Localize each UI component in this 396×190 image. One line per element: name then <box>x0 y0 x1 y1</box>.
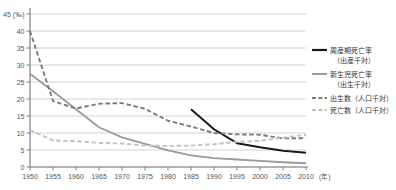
x-axis-tick-label: 1985 <box>183 173 199 180</box>
x-axis-tick-label: 1955 <box>45 173 61 180</box>
x-axis-tick-label: 2010 <box>298 173 314 180</box>
line-chart: 45 (‰)4035302520151050195019551960196519… <box>0 0 396 190</box>
x-axis-tick-label: 1995 <box>229 173 245 180</box>
legend-sublabel-1: （出産千対） <box>333 56 375 65</box>
y-axis-tick-label: 20 <box>17 96 25 103</box>
x-axis-tick-label: 2005 <box>275 173 291 180</box>
x-axis-tick-label: 1950 <box>22 173 38 180</box>
y-axis-tick-label: 0 <box>21 164 25 171</box>
y-axis-tick-label: 5 <box>21 147 25 154</box>
y-axis-tick-label: 25 <box>17 79 25 86</box>
legend-label-1: 周産期死亡率 <box>330 46 372 55</box>
legend-label-3: 出生数（人口千対） <box>330 94 393 103</box>
series-line-4 <box>30 130 306 146</box>
y-axis-tick-label: 35 <box>17 45 25 52</box>
legend-label-4: 死亡数（人口千対） <box>330 106 393 115</box>
x-axis-tick-label: 2000 <box>252 173 268 180</box>
legend-sublabel-2: （出生千対） <box>333 80 375 89</box>
x-axis-tick-label: 1965 <box>91 173 107 180</box>
y-axis-tick-label: 40 <box>17 28 25 35</box>
chart-container: 45 (‰)4035302520151050195019551960196519… <box>0 0 396 190</box>
x-axis-tick-label: 1960 <box>68 173 84 180</box>
legend-label-2: 新生児死亡率 <box>330 70 372 79</box>
y-axis-tick-label: 10 <box>17 130 25 137</box>
x-axis-tick-label: 1990 <box>206 173 222 180</box>
x-axis-tick-label: 1975 <box>137 173 153 180</box>
x-axis-tick-label: 1980 <box>160 173 176 180</box>
y-axis-tick-label: 15 <box>17 113 25 120</box>
x-axis-tick-label: 1970 <box>114 173 130 180</box>
series-line-3 <box>30 31 306 138</box>
x-axis-unit-label: (年) <box>319 172 330 181</box>
y-axis-tick-label: 30 <box>17 62 25 69</box>
y-axis-tick-label: 45 (‰) <box>3 11 24 19</box>
